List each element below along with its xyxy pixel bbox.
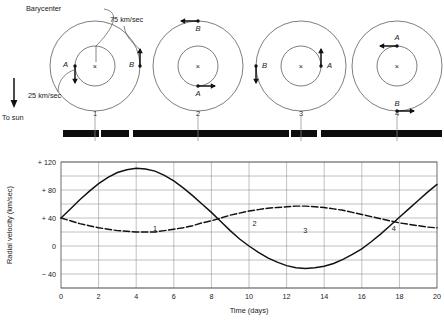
to-sun-label: To sun [2, 113, 24, 122]
orbit-panel-1-star-b-velocity-arrow-head [137, 48, 143, 53]
x-tick-label-6: 6 [172, 292, 176, 301]
figure-root: ×AB×AB×AB×ABBarycenter25 km/sec75 km/sec… [0, 0, 444, 324]
orbit-panel-2-barycenter-marker: × [196, 62, 200, 71]
spectrum-phase-label-3: 3 [299, 109, 303, 118]
spectrum-bar-4-seg-1 [358, 130, 442, 137]
speed-a-label: 25 km/sec [28, 91, 62, 100]
plot-phase-marker-2: 2 [253, 219, 257, 228]
spectrum-bar-3-seg-1 [253, 130, 289, 137]
orbit-panel-4-barycenter-marker: × [395, 62, 399, 71]
x-tick-label-14: 14 [320, 292, 328, 301]
orbit-panel-3-star-b-velocity-arrow-head [253, 79, 259, 84]
orbit-panel-4-star-b-velocity-arrow-head [410, 108, 415, 114]
orbit-panel-2-star-b-velocity-arrow-head [180, 18, 185, 24]
orbit-panel-2-star-a-label: A [194, 89, 200, 98]
orbit-panel-1-star-a-label: A [62, 60, 68, 69]
x-tick-label-16: 16 [358, 292, 366, 301]
orbit-panel-1-star-b-label: B [129, 60, 134, 69]
y-tick-label-40: + 40 [42, 214, 56, 223]
orbit-panel-4-star-a-velocity-arrow-head [379, 43, 384, 49]
binary-star-diagram: ×AB×AB×AB×ABBarycenter25 km/sec75 km/sec… [0, 0, 444, 324]
plot-phase-marker-1: 1 [153, 224, 157, 233]
orbit-panel-4-star-b-label: B [394, 99, 399, 108]
y-tick-label-0: 0 [52, 242, 56, 251]
x-tick-label-10: 10 [245, 292, 253, 301]
orbit-panel-2-star-a-velocity-arrow-head [211, 83, 216, 89]
to-sun-arrow-head [11, 100, 18, 108]
spectrum-bar-2-seg-1 [151, 130, 259, 137]
orbit-panel-3-star-b-label: B [262, 61, 267, 70]
x-tick-label-0: 0 [59, 292, 63, 301]
spectrum-bar-1-seg-1 [63, 130, 99, 137]
x-tick-label-4: 4 [134, 292, 138, 301]
orbit-panel-2-star-b-label: B [195, 24, 200, 33]
spectrum-bar-1-seg-2 [101, 130, 129, 137]
x-tick-label-12: 12 [283, 292, 291, 301]
speed-a-leader-line [58, 70, 74, 92]
spectrum-phase-label-1: 1 [93, 109, 97, 118]
plot-phase-marker-4: 4 [392, 224, 396, 233]
x-tick-label-2: 2 [97, 292, 101, 301]
orbit-panel-1-barycenter-marker: × [93, 62, 97, 71]
y-tick-label-80: + 80 [42, 186, 56, 195]
spectrum-bar-3-seg-3 [321, 130, 363, 137]
speed-b-label: 75 km/sec [110, 15, 144, 24]
orbit-panel-3-star-a-velocity-arrow-head [318, 48, 324, 53]
x-tick-label-18: 18 [395, 292, 403, 301]
spectrum-bar-3-seg-2 [291, 130, 317, 137]
y-tick-label-120: + 120 [38, 158, 56, 167]
speed-b-leader-line [124, 26, 139, 49]
orbit-panel-4-star-a-label: A [393, 33, 399, 42]
spectrum-phase-label-2: 2 [196, 109, 200, 118]
spectrum-phase-label-4: 4 [395, 109, 399, 118]
x-tick-label-20: 20 [433, 292, 441, 301]
plot-phase-marker-3: 3 [303, 226, 307, 235]
x-axis-title: Time (days) [230, 306, 269, 315]
orbit-panel-3-barycenter-marker: × [299, 62, 303, 71]
orbit-panel-3-star-a-label: A [326, 61, 332, 70]
y-tick-label--40: − 40 [42, 270, 56, 279]
y-axis-title: Radial velocity (km/sec) [5, 186, 14, 264]
barycenter-label: Barycenter [26, 4, 62, 13]
x-tick-label-8: 8 [209, 292, 213, 301]
orbit-panel-1-star-a-velocity-arrow-head [72, 79, 78, 84]
